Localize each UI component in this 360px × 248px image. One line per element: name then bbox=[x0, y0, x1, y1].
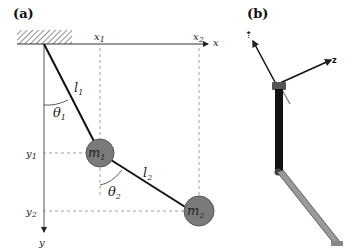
double-pendulum-diagram: x y x1 x2 y1 y2 l1 l2 θ1 θ2 m1 m2 ⇡ z bbox=[0, 0, 360, 248]
link-1-3d bbox=[275, 89, 283, 171]
angle-arc-theta2 bbox=[100, 170, 122, 185]
y1-tick: y1 bbox=[25, 148, 37, 161]
link-2-3d bbox=[277, 170, 341, 245]
frame-axis-up bbox=[253, 41, 276, 84]
ceiling-support bbox=[17, 30, 72, 44]
x1-tick: x1 bbox=[94, 31, 105, 44]
joint-1 bbox=[272, 82, 286, 90]
x2-tick: x2 bbox=[193, 31, 204, 44]
panel-b: ⇡ z bbox=[245, 30, 343, 246]
theta1-label: θ1 bbox=[53, 105, 66, 122]
panel-a: x y x1 x2 y1 y2 l1 l2 θ1 θ2 m1 m2 bbox=[17, 30, 219, 248]
link-1 bbox=[44, 44, 100, 153]
frame-axis-right bbox=[280, 60, 331, 83]
x-axis-label: x bbox=[213, 37, 219, 48]
svg-text:z: z bbox=[332, 56, 337, 65]
svg-text:⇡: ⇡ bbox=[245, 30, 253, 40]
y-axis-label: y bbox=[38, 237, 45, 248]
link-2 bbox=[100, 153, 190, 210]
link-2-label: l2 bbox=[143, 165, 152, 182]
link-1-label: l1 bbox=[74, 80, 83, 97]
theta2-label: θ2 bbox=[108, 184, 121, 201]
y2-tick: y2 bbox=[25, 206, 37, 219]
